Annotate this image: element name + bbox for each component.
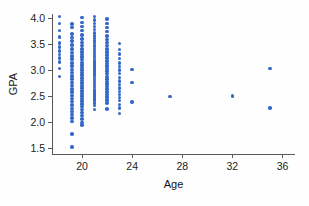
scatter-point (58, 29, 62, 33)
scatter-point (70, 120, 74, 124)
scatter-point (118, 42, 122, 46)
x-tick-mark (232, 154, 233, 158)
y-axis-label: GPA (7, 73, 19, 95)
scatter-point (80, 25, 84, 29)
scatter-point (70, 39, 74, 43)
scatter-point (118, 52, 122, 56)
y-tick-label: 2.5 (30, 90, 45, 102)
scatter-point (58, 15, 62, 19)
x-tick-mark (282, 154, 283, 158)
scatter-point (118, 99, 122, 103)
scatter-point (80, 123, 84, 127)
y-axis-ticks: 1.52.02.53.03.54.0 (0, 0, 52, 206)
scatter-point (58, 67, 62, 71)
scatter-point (58, 75, 62, 79)
scatter-point-layer (52, 12, 295, 152)
scatter-point (105, 17, 109, 21)
scatter-point (93, 108, 97, 112)
scatter-point (105, 101, 109, 105)
scatter-point (118, 72, 122, 76)
scatter-point (118, 106, 122, 110)
scatter-point (118, 48, 122, 52)
x-axis-label: Age (52, 178, 295, 190)
scatter-point (80, 29, 84, 33)
y-tick-label: 1.5 (30, 142, 45, 154)
y-tick-label: 4.0 (30, 12, 45, 24)
scatter-point (70, 26, 74, 30)
scatter-point (80, 33, 84, 37)
scatter-plot-figure: 1.52.02.53.03.54.0 GPA 2024283236 Age (0, 0, 309, 206)
scatter-point (58, 60, 62, 64)
x-tick-label: 28 (176, 160, 188, 172)
x-tick-mark (182, 154, 183, 158)
scatter-point (105, 26, 109, 30)
scatter-point (80, 21, 84, 25)
scatter-point (93, 104, 97, 108)
y-tick-label: 3.0 (30, 64, 45, 76)
x-tick-label: 36 (277, 160, 289, 172)
scatter-point (58, 41, 62, 45)
scatter-point (231, 94, 235, 98)
y-tick-label: 2.0 (30, 116, 45, 128)
scatter-point (80, 16, 84, 20)
scatter-point (70, 145, 74, 149)
scatter-point (118, 57, 122, 61)
plot-area (52, 12, 295, 152)
scatter-point (58, 22, 62, 26)
scatter-point (130, 81, 134, 85)
x-tick-label: 32 (227, 160, 239, 172)
scatter-point (268, 67, 272, 71)
scatter-point (168, 95, 172, 99)
scatter-point (130, 100, 134, 104)
x-tick-label: 24 (126, 160, 138, 172)
scatter-point (130, 68, 134, 72)
x-tick-mark (82, 154, 83, 158)
scatter-point (58, 35, 62, 39)
scatter-point (268, 106, 272, 110)
scatter-point (70, 132, 74, 136)
scatter-point (105, 30, 109, 34)
scatter-point (105, 107, 109, 111)
scatter-point (105, 22, 109, 26)
y-tick-label: 3.5 (30, 38, 45, 50)
x-tick-mark (132, 154, 133, 158)
x-tick-label: 20 (76, 160, 88, 172)
scatter-point (118, 112, 122, 116)
